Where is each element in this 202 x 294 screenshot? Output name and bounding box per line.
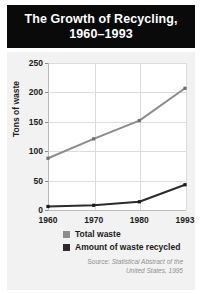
y-tick-label: 250 (17, 58, 43, 68)
data-point-marker (138, 119, 141, 122)
legend-item-recycled: Amount of waste recycled (63, 241, 180, 253)
y-tick-label: 100 (17, 146, 43, 156)
y-tick-label: 0 (17, 205, 43, 215)
series-plot (48, 63, 186, 211)
series-line-total-waste (48, 88, 185, 158)
chart-panel: Tons of waste Total waste Amount of wast… (7, 52, 195, 290)
y-tick-mark (45, 151, 48, 152)
x-tick-label: 1970 (84, 215, 103, 225)
x-tick-label: 1980 (130, 215, 149, 225)
data-point-marker (92, 137, 95, 140)
y-tick-label: 50 (17, 176, 43, 186)
source-line-2: United States, 1995 (126, 267, 183, 274)
chart-legend: Total waste Amount of waste recycled (63, 228, 180, 254)
x-tick-label: 1993 (176, 215, 195, 225)
y-tick-mark (45, 63, 48, 64)
y-tick-label: 200 (17, 87, 43, 97)
data-point-marker (183, 183, 186, 186)
gridline-vertical (186, 63, 187, 210)
legend-label-total-waste: Total waste (75, 229, 121, 239)
legend-swatch-total-waste (63, 231, 70, 238)
y-tick-mark (45, 181, 48, 182)
source-line-1: Statistical Abstract of the (112, 258, 183, 265)
chart-title-line-1: The Growth of Recycling, (24, 12, 177, 27)
source-note: Source: Statistical Abstract of the Unit… (23, 257, 183, 275)
legend-swatch-recycled (63, 244, 70, 251)
data-point-marker (46, 157, 49, 160)
y-tick-label: 150 (17, 117, 43, 127)
recycling-growth-chart-figure: The Growth of Recycling, 1960–1993 Tons … (0, 0, 202, 294)
data-point-marker (138, 200, 141, 203)
data-point-marker (183, 87, 186, 90)
source-prefix: Source: (87, 258, 109, 265)
series-line-recycled (48, 185, 185, 207)
x-tick-label: 1960 (39, 215, 58, 225)
data-point-marker (46, 205, 49, 208)
data-point-marker (92, 204, 95, 207)
chart-title-line-2: 1960–1993 (69, 27, 132, 42)
y-tick-mark (45, 210, 48, 211)
legend-item-total-waste: Total waste (63, 228, 180, 240)
chart-title-banner: The Growth of Recycling, 1960–1993 (7, 5, 195, 48)
legend-label-recycled: Amount of waste recycled (75, 242, 180, 252)
y-tick-mark (45, 122, 48, 123)
y-tick-mark (45, 92, 48, 93)
